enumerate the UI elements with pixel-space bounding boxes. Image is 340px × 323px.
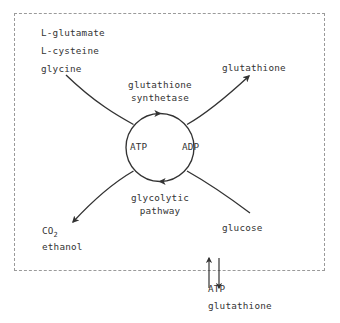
label-glycine: glycine bbox=[41, 63, 82, 76]
label-ethanol: ethanol bbox=[42, 241, 83, 254]
label-glutathione-synthetase: glutathionesynthetase bbox=[104, 79, 216, 104]
label-adp: ADP bbox=[182, 141, 199, 154]
diagram-canvas: L-glutamate L-cysteine glycine glutathio… bbox=[0, 0, 340, 323]
label-glycolytic-pathway: glycolyticpathway bbox=[104, 192, 216, 217]
label-transport-glutathione: glutathione bbox=[208, 300, 272, 313]
co2-base: CO bbox=[42, 225, 54, 236]
label-co2: CO2 bbox=[42, 225, 58, 241]
label-l-glutamate: L-glutamate bbox=[41, 27, 105, 40]
pathway-line-1: glycolytic bbox=[131, 192, 189, 203]
enzyme-line-2: synthetase bbox=[131, 92, 189, 103]
label-glutathione-product: glutathione bbox=[222, 62, 286, 75]
label-transport-atp: ATP bbox=[208, 283, 225, 296]
co2-subscript: 2 bbox=[54, 231, 58, 239]
label-atp: ATP bbox=[130, 141, 147, 154]
pathway-line-2: pathway bbox=[140, 205, 181, 216]
label-glucose: glucose bbox=[222, 222, 263, 235]
label-l-cysteine: L-cysteine bbox=[41, 45, 99, 58]
enzyme-line-1: glutathione bbox=[128, 79, 192, 90]
